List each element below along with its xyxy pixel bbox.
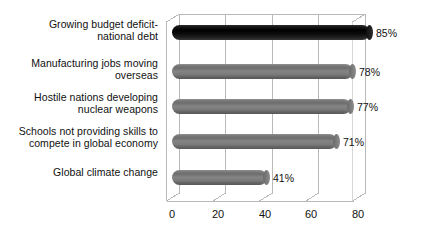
bar-manufacturing-jobs[interactable] bbox=[172, 64, 353, 79]
data-label-budget-deficit: 85% bbox=[376, 28, 397, 39]
x-tick-60: 60 bbox=[298, 208, 324, 220]
bar-end-cap bbox=[347, 99, 354, 114]
data-label-climate-change: 41% bbox=[273, 173, 294, 184]
bar-chart: Growing budget deficit- national debt Ma… bbox=[0, 0, 421, 240]
x-tick-40: 40 bbox=[252, 208, 278, 220]
bar-hostile-nations[interactable] bbox=[172, 99, 351, 114]
bar-end-cap bbox=[366, 25, 373, 40]
x-tick-80: 80 bbox=[345, 208, 371, 220]
bar-schools-skills[interactable] bbox=[172, 134, 337, 149]
bar-end-cap bbox=[263, 170, 270, 185]
data-label-manufacturing-jobs: 78% bbox=[359, 67, 380, 78]
x-tick-0: 0 bbox=[159, 208, 185, 220]
bar-climate-change[interactable] bbox=[172, 170, 267, 185]
bar-series bbox=[0, 0, 421, 240]
data-label-schools-skills: 71% bbox=[343, 137, 364, 148]
data-label-hostile-nations: 77% bbox=[357, 102, 378, 113]
bar-budget-deficit[interactable] bbox=[172, 25, 370, 40]
bar-end-cap bbox=[333, 134, 340, 149]
bar-end-cap bbox=[349, 64, 356, 79]
x-tick-20: 20 bbox=[205, 208, 231, 220]
